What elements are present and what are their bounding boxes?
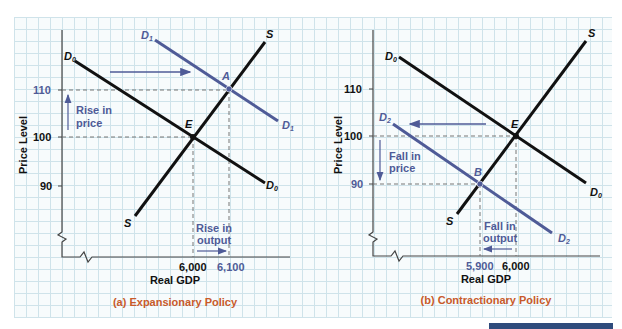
ylabel-a: Price Level	[17, 116, 29, 174]
label-point-a: A	[221, 70, 230, 82]
ylabel-b: Price Level	[332, 116, 344, 174]
label-d2-bottom-b: D2	[558, 232, 570, 245]
label-d1-bottom-a: D1	[282, 119, 294, 132]
price-change-label-2-a: price	[76, 117, 102, 129]
price-change-label-1-b: Fall in	[389, 150, 421, 162]
point-e-b	[513, 133, 519, 139]
xtick-6000-b: 6,000	[502, 260, 530, 272]
output-change-label-1-b: Fall in	[484, 220, 516, 232]
price-change-label-1-a: Rise in	[76, 104, 112, 116]
label-d2-top-b: D2	[379, 111, 391, 124]
label-d1-top-a: D1	[141, 29, 153, 42]
figure: 110 100 90 Price Level Rise in price Ris…	[0, 0, 622, 329]
label-d0-bottom-b: D0	[590, 186, 602, 199]
d2-curve-b	[393, 124, 552, 233]
xtick-5900-b: 5,900	[466, 260, 494, 272]
title-a: (a) Expansionary Policy	[113, 296, 238, 308]
label-e-b: E	[511, 118, 519, 130]
label-e-a: E	[185, 118, 193, 130]
output-change-label-2-a: output	[197, 234, 232, 246]
label-s-bottom-b: S	[446, 215, 454, 227]
ytick-110-a: 110	[33, 84, 51, 96]
label-s-top-a: S	[266, 28, 274, 40]
ytick-90-b: 90	[351, 178, 363, 190]
label-s-bottom-a: S	[124, 217, 132, 229]
xlabel-b: Real GDP	[461, 273, 511, 285]
panel-contractionary: 110 100 90 Price Level Fall in price Fal…	[332, 27, 602, 306]
xtick-6100-a: 6,100	[217, 261, 245, 273]
output-change-label-1-a: Rise in	[196, 222, 232, 234]
label-d0-bottom-a: D0	[266, 179, 278, 192]
charts-svg: 110 100 90 Price Level Rise in price Ris…	[0, 0, 622, 329]
footer-accent-bar	[489, 323, 613, 329]
axes-a	[58, 30, 290, 262]
label-d0-top-b: D0	[385, 50, 397, 63]
label-point-b: B	[474, 166, 482, 178]
xlabel-a: Real GDP	[150, 274, 200, 286]
point-b	[477, 181, 483, 187]
point-e-a	[190, 134, 196, 140]
output-change-label-2-b: output	[483, 232, 518, 244]
ytick-110-b: 110	[344, 83, 362, 95]
price-change-label-2-b: price	[389, 162, 415, 174]
label-s-top-b: S	[588, 27, 596, 39]
title-b: (b) Contractionary Policy	[421, 294, 553, 306]
ytick-90-a: 90	[40, 180, 52, 192]
ytick-100-b: 100	[344, 130, 362, 142]
label-d0-top-a: D0	[64, 50, 76, 63]
ytick-100-a: 100	[33, 131, 51, 143]
s-curve-b	[457, 41, 586, 214]
point-a	[226, 86, 232, 92]
panel-expansionary: 110 100 90 Price Level Rise in price Ris…	[17, 28, 294, 308]
xtick-6000-a: 6,000	[179, 261, 207, 273]
